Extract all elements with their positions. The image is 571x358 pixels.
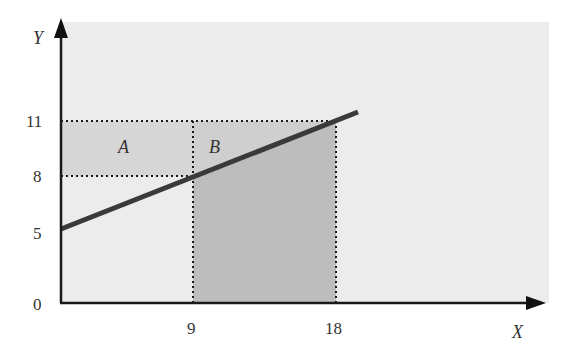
x-tick-18: 18 (325, 319, 342, 338)
chart: Y X 11 8 5 0 9 18 A B (0, 0, 571, 358)
region-a-label: A (117, 137, 130, 157)
y-tick-8: 8 (33, 167, 42, 186)
y-tick-11: 11 (26, 112, 42, 131)
x-axis-label: X (511, 322, 524, 342)
y-axis-label: Y (33, 28, 45, 48)
region-b-label: B (209, 137, 220, 157)
x-tick-9: 9 (187, 319, 196, 338)
y-tick-5: 5 (33, 224, 42, 243)
y-tick-0: 0 (33, 295, 42, 314)
